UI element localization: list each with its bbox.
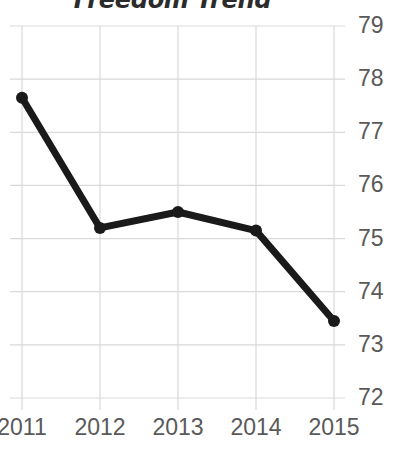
line-chart-plot — [0, 0, 400, 457]
y-axis-tick-label: 76 — [358, 173, 398, 196]
data-point-marker — [172, 206, 184, 218]
y-axis-tick-label: 77 — [358, 120, 398, 143]
y-axis-tick-label: 74 — [358, 280, 398, 303]
y-axis-tick-label: 73 — [358, 333, 398, 356]
x-axis-tick-label: 2014 — [216, 416, 296, 439]
y-axis-tick-label: 79 — [358, 14, 398, 37]
y-axis-tick-label: 72 — [358, 386, 398, 409]
data-point-marker — [328, 315, 340, 327]
data-point-marker — [16, 92, 28, 104]
x-axis-tick-label: 2013 — [138, 416, 218, 439]
x-axis-tick-label: 2015 — [294, 416, 374, 439]
x-axis-tick-label: 2011 — [0, 416, 62, 439]
data-point-marker — [250, 225, 262, 237]
y-axis-tick-label: 75 — [358, 227, 398, 250]
data-point-marker — [94, 222, 106, 234]
chart-page: Freedom Trend 7978777675747372 201120122… — [0, 0, 400, 457]
x-axis-tick-label: 2012 — [60, 416, 140, 439]
y-axis-tick-label: 78 — [358, 67, 398, 90]
